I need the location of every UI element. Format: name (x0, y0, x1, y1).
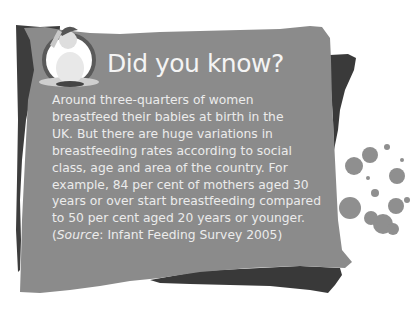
body-line: breastfeeding rates according to social (52, 143, 352, 160)
body-line: years or over start breastfeeding compar… (52, 193, 352, 210)
body-line: breastfeed their babies at birth in the (52, 109, 352, 126)
body-line: example, 84 per cent of mothers aged 30 (52, 177, 352, 194)
source-citation: (Source: Infant Feeding Survey 2005) (52, 227, 352, 244)
body-line: to 50 per cent aged 20 years or younger. (52, 210, 352, 227)
callout-body: Around three-quarters of women breastfee… (52, 92, 352, 244)
callout-title: Did you know? (107, 49, 284, 78)
body-line: Around three-quarters of women (52, 92, 352, 109)
body-line: class, age and area of the country. For (52, 160, 352, 177)
source-label: Source (57, 228, 100, 242)
body-line: UK. But there are huge variations in (52, 126, 352, 143)
